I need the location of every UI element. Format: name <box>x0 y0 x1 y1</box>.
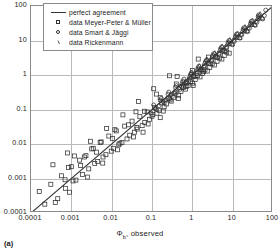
line-icon <box>47 12 69 13</box>
data-point <box>37 189 41 193</box>
legend-item-perfect-agreement: perfect agreement <box>47 7 148 17</box>
data-point <box>175 75 179 79</box>
x-axis-title: Φb, observed <box>0 229 280 240</box>
data-point <box>162 105 166 109</box>
data-point <box>63 178 67 182</box>
data-point <box>116 148 120 152</box>
data-point <box>101 161 105 165</box>
square-marker-icon <box>47 20 69 24</box>
x-axis-tick-label: 100 <box>252 214 280 222</box>
legend-item-rickenmann: data Rickenmann <box>47 37 148 47</box>
data-point <box>84 154 88 158</box>
circle-marker-icon <box>47 30 69 34</box>
y-axis-tick-label: 0.01 <box>12 139 27 147</box>
x-axis-tick-label: 1 <box>171 214 211 222</box>
data-point <box>65 151 69 155</box>
data-point <box>79 163 83 167</box>
data-point <box>114 129 118 133</box>
data-point <box>81 173 85 177</box>
data-point <box>85 175 89 179</box>
data-point <box>227 51 231 55</box>
data-point <box>196 57 200 61</box>
x-axis-tick-label: 10 <box>212 214 252 222</box>
x-axis-tick-label: 0.01 <box>91 214 131 222</box>
data-point <box>121 113 125 117</box>
data-point <box>134 110 138 114</box>
data-point <box>167 74 171 78</box>
y-axis-tick-label: 10 <box>19 36 27 44</box>
y-axis-tick-label: 0.1 <box>16 105 27 113</box>
x-axis-tick-label: 0.1 <box>131 214 171 222</box>
legend-label: data Smart & Jäggi <box>69 29 129 36</box>
x-axis-tick-labels: 0.00010.0010.010.1110100 <box>0 214 280 226</box>
triangle-marker-icon <box>47 40 69 44</box>
data-point <box>158 116 162 120</box>
data-point <box>141 130 145 134</box>
data-point <box>94 150 98 154</box>
data-point <box>87 167 91 171</box>
data-point <box>152 103 156 107</box>
data-point <box>53 201 57 205</box>
data-point <box>63 186 67 190</box>
data-point <box>67 190 71 194</box>
y-axis-tick-label: 100 <box>14 1 27 9</box>
x-axis-tick-label: 0.001 <box>50 214 90 222</box>
data-point <box>136 100 140 104</box>
x-axis-tick-label: 0.0001 <box>10 214 50 222</box>
data-point <box>51 163 55 167</box>
legend-box: perfect agreement data Meyer-Peter & Mül… <box>43 3 153 51</box>
data-point <box>161 109 165 113</box>
data-point <box>78 158 82 162</box>
legend-item-smart-jaggi: data Smart & Jäggi <box>47 27 148 37</box>
data-point <box>59 174 63 178</box>
y-axis-tick-label: 1 <box>23 70 27 78</box>
data-point <box>73 154 77 158</box>
data-point <box>105 127 109 131</box>
legend-label: data Rickenmann <box>69 39 123 46</box>
data-point <box>82 155 86 159</box>
figure-panel: 1001010.10.010.0010.0001 0.00010.0010.01… <box>0 0 280 252</box>
legend-item-meyer-peter-muller: data Meyer-Peter & Müller <box>47 17 148 27</box>
data-point <box>132 135 136 139</box>
panel-caption: (a) <box>4 239 13 248</box>
data-point <box>49 182 53 186</box>
data-point <box>113 128 117 132</box>
legend-label: perfect agreement <box>69 9 126 16</box>
x-axis-title-rest: , observed <box>126 229 163 238</box>
legend-label: data Meyer-Peter & Müller <box>69 19 151 26</box>
data-point <box>89 139 93 143</box>
y-axis-tick-label: 0.001 <box>8 174 27 182</box>
data-point <box>152 87 156 91</box>
data-point <box>56 197 60 201</box>
